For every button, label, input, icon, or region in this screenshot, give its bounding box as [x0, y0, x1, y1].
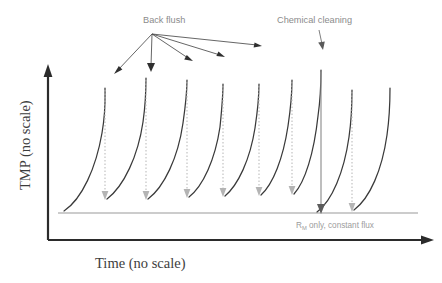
tmp-curve-cycle-2 — [107, 78, 146, 199]
figure-container: Back flush Chemical cleaning RM only, co… — [0, 0, 442, 283]
chemical-cleaning-annotation-arrow — [318, 30, 325, 50]
backflush-fan-arrow-1 — [114, 34, 152, 74]
backflush-drop-arrow-5 — [256, 86, 263, 196]
y-axis-title: TMP (no scale) — [17, 100, 34, 190]
tmp-curve-cycle-6 — [261, 80, 292, 195]
svg-text:RM only, constant flux: RM only, constant flux — [296, 221, 374, 231]
y-axis-arrowhead — [44, 64, 53, 77]
x-axis-title: Time (no scale) — [95, 255, 186, 272]
tmp-curve-cycle-4 — [189, 84, 223, 197]
tmp-curve-cycle-5 — [225, 84, 259, 196]
backflush-drop-arrow-7 — [349, 92, 356, 212]
tmp-curve-cycle-8 — [317, 90, 352, 212]
y-axis — [44, 64, 53, 240]
tmp-curve-cycle-7 — [294, 70, 321, 194]
backflush-drop-arrow-6 — [289, 82, 296, 195]
baseline-label: RM only, constant flux — [296, 221, 374, 231]
backflush-drop-arrow-3 — [184, 82, 191, 198]
backflush-fan-arrow-2 — [147, 34, 155, 72]
backflush-drop-arrow-2 — [143, 80, 150, 200]
tmp-time-diagram: Back flush Chemical cleaning RM only, co… — [0, 0, 442, 283]
chemical-cleaning-drop-arrow — [317, 72, 325, 214]
x-axis-arrowhead — [421, 236, 434, 245]
x-axis — [48, 236, 434, 245]
tmp-curve-cycle-3 — [148, 80, 187, 199]
tmp-curve-cycle-9 — [354, 88, 390, 210]
tmp-curve-cycle-1 — [64, 88, 105, 211]
backflush-annotation-arrows — [114, 34, 262, 74]
backflush-drop-arrow-4 — [220, 86, 227, 197]
backflush-label: Back flush — [143, 15, 185, 25]
baseline-label-rest: only, constant flux — [307, 221, 374, 230]
tmp-curve-group — [64, 70, 390, 212]
chemical-cleaning-label: Chemical cleaning — [277, 15, 352, 25]
